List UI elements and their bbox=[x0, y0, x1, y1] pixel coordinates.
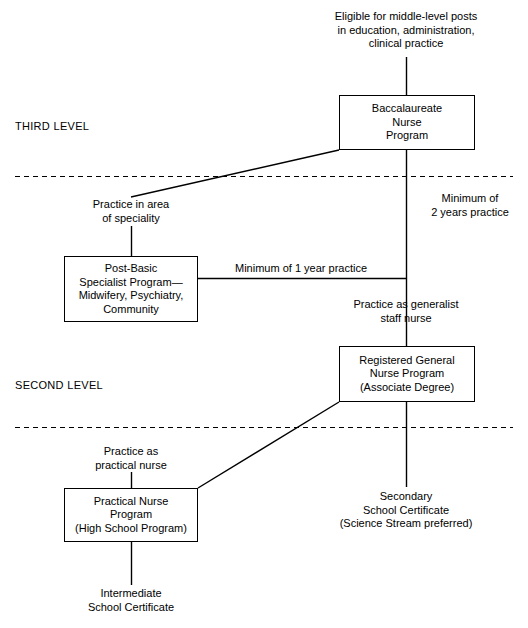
label-intermediate-school-certificate: Intermediate School Certificate bbox=[41, 587, 221, 614]
edge-practical-nurse-to-rgn bbox=[198, 402, 339, 488]
label-practice-generalist: Practice as generalist staff nurse bbox=[321, 298, 491, 325]
node-practical-nurse-program[interactable]: Practical Nurse Program (High School Pro… bbox=[64, 488, 198, 542]
node-post-basic-specialist-program[interactable]: Post-Basic Specialist Program— Midwifery… bbox=[64, 256, 198, 322]
level-label-second: SECOND LEVEL bbox=[15, 379, 103, 393]
flowchart-canvas: THIRD LEVEL SECOND LEVEL Eligible for mi… bbox=[0, 0, 528, 628]
label-minimum-two-years: Minimum of 2 years practice bbox=[415, 192, 525, 219]
level-label-third: THIRD LEVEL bbox=[15, 120, 89, 134]
edge-speciality-to-baccalaureate bbox=[131, 150, 339, 197]
node-baccalaureate-nurse-program[interactable]: Baccalaureate Nurse Program bbox=[339, 95, 475, 150]
node-registered-general-nurse-program[interactable]: Registered General Nurse Program (Associ… bbox=[339, 346, 475, 402]
label-top-outcome: Eligible for middle-level posts in educa… bbox=[291, 10, 521, 51]
edge-label-minimum-one-year: Minimum of 1 year practice bbox=[232, 262, 370, 276]
label-practice-speciality: Practice in area of speciality bbox=[66, 198, 196, 225]
label-secondary-school-certificate: Secondary School Certificate (Science St… bbox=[301, 490, 511, 531]
label-practice-practical-nurse: Practice as practical nurse bbox=[66, 445, 196, 472]
